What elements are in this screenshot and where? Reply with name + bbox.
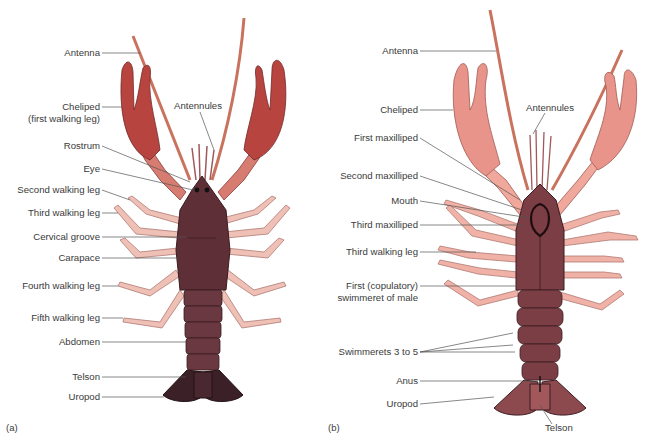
- panel-tag-a: (a): [6, 422, 18, 433]
- crayfish-anatomy-figure: Antenna Cheliped (first walking leg) Ant…: [0, 0, 650, 444]
- label-fourth-walking-leg-a: Fourth walking leg: [22, 280, 100, 291]
- label-eye-a: Eye: [83, 163, 100, 174]
- label-fifth-walking-leg-a: Fifth walking leg: [31, 312, 100, 323]
- label-abdomen-a: Abdomen: [59, 336, 100, 347]
- label-antenna-a: Antenna: [64, 47, 100, 58]
- label-first-swimmeret-b-sub: swimmeret of male: [338, 292, 419, 303]
- label-third-walking-leg-a: Third walking leg: [28, 207, 100, 218]
- label-uropod-a: Uropod: [69, 391, 100, 402]
- label-cheliped-a-sub: (first walking leg): [28, 113, 100, 124]
- label-cervical-groove-a: Cervical groove: [33, 231, 100, 242]
- label-first-maxilliped-b: First maxilliped: [354, 132, 418, 143]
- label-cheliped-b: Cheliped: [380, 104, 418, 115]
- label-telson-a: Telson: [72, 371, 100, 382]
- crayfish-ventral-illustration: [438, 10, 638, 415]
- label-telson-b: Telson: [545, 422, 573, 433]
- panel-tag-b: (b): [328, 422, 340, 433]
- label-third-walking-leg-b: Third walking leg: [346, 246, 418, 257]
- label-second-walking-leg-a: Second walking leg: [17, 184, 100, 195]
- label-rostrum-a: Rostrum: [64, 140, 100, 151]
- label-third-maxilliped-b: Third maxilliped: [351, 219, 418, 230]
- label-first-swimmeret-b: First (copulatory): [346, 280, 418, 291]
- label-second-maxilliped-b: Second maxilliped: [340, 170, 418, 181]
- label-uropod-b: Uropod: [387, 398, 418, 409]
- label-antennules-b: Antennules: [526, 102, 574, 113]
- label-anus-b: Anus: [396, 375, 418, 386]
- label-antennules-a: Antennules: [174, 100, 222, 111]
- label-carapace-a: Carapace: [58, 252, 100, 263]
- label-antenna-b: Antenna: [382, 45, 418, 56]
- label-swimmerets-b: Swimmerets 3 to 5: [339, 346, 418, 357]
- label-cheliped-a: Cheliped: [62, 101, 100, 112]
- crayfish-dorsal-illustration: [114, 18, 290, 402]
- label-mouth-b: Mouth: [391, 195, 418, 206]
